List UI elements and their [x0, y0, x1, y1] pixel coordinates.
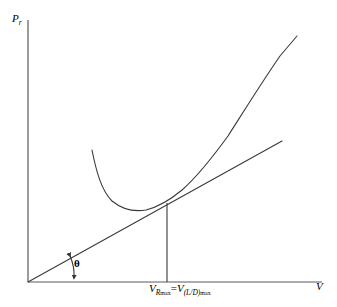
tangent-point-label: VRmax=V(L/D)max	[149, 283, 211, 297]
power-required-curve	[92, 36, 297, 211]
tangent-line-from-origin	[28, 141, 282, 282]
tangent-label-v2-subscript: (L/D)	[184, 288, 201, 297]
y-axis-label-subscript: r	[19, 18, 22, 27]
y-axis-label-main: P	[12, 12, 19, 24]
y-axis-label: Pr	[12, 13, 22, 27]
theta-angle-label: θ	[74, 258, 80, 269]
tangent-label-v2-subsubscript: max	[200, 290, 210, 296]
tangent-label-v1: V	[149, 282, 156, 294]
tangent-label-v1-subsubscript: max	[160, 290, 170, 296]
x-axis-label-text: V	[316, 280, 323, 292]
plot-canvas	[0, 0, 337, 307]
x-axis-label: V	[316, 281, 323, 292]
power-required-figure: Pr V VRmax=V(L/D)max θ	[0, 0, 337, 307]
tangent-label-v2: V	[177, 282, 184, 294]
